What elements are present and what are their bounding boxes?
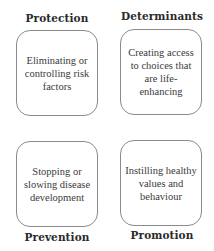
determinants-label: Determinants	[112, 10, 212, 22]
determinants-text: Creating access to choices that are life…	[125, 46, 197, 98]
promotion-text: Instilling healthy values and behaviour	[125, 164, 197, 203]
prevention-text: Stopping or slowing disease development	[21, 165, 93, 204]
protection-label: Protection	[7, 12, 107, 24]
promotion-box: Instilling healthy values and behaviour	[120, 140, 202, 226]
determinants-box: Creating access to choices that are life…	[120, 29, 202, 115]
promotion-label: Promotion	[112, 229, 212, 241]
prevention-label: Prevention	[7, 231, 107, 243]
protection-text: Eliminating or controlling risk factors	[21, 54, 93, 93]
prevention-box: Stopping or slowing disease development	[16, 141, 98, 227]
protection-box: Eliminating or controlling risk factors	[16, 30, 98, 116]
